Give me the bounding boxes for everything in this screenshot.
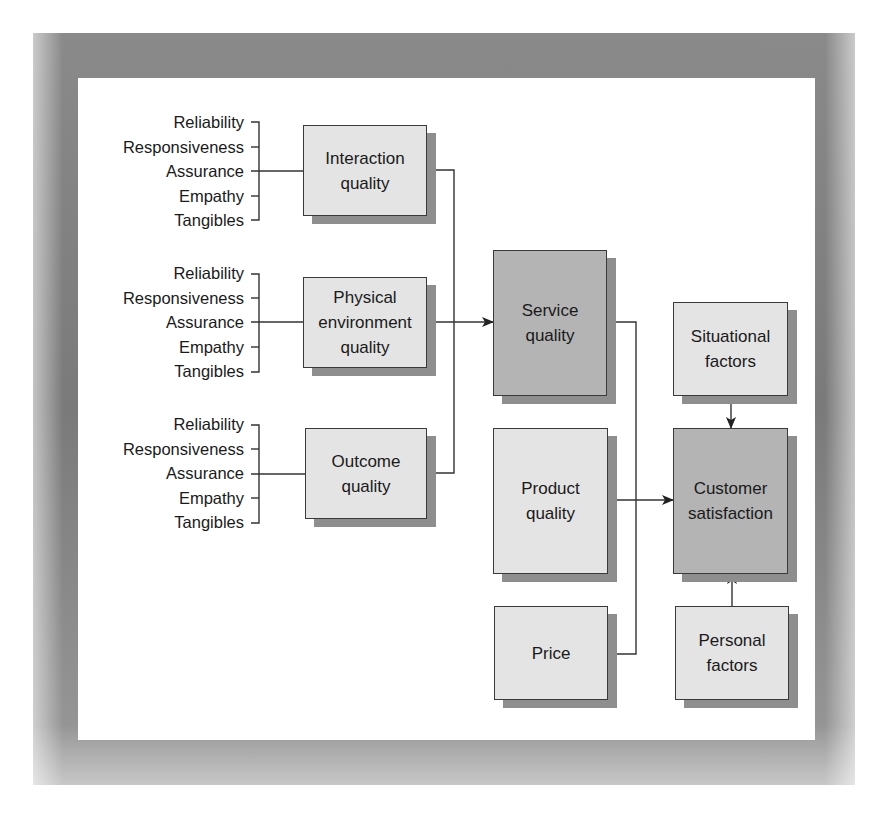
dimension-label: Responsiveness	[123, 286, 244, 311]
node-outcome-quality: Outcome quality	[305, 428, 427, 519]
node-service-quality: Service quality	[493, 250, 607, 396]
dimension-label: Assurance	[123, 461, 244, 486]
node-product-quality: Product quality	[493, 428, 608, 574]
dimension-label: Empathy	[123, 184, 244, 209]
node-label: Customer satisfaction	[688, 476, 773, 526]
node-label: Physical environment quality	[318, 285, 412, 360]
node-label: Product quality	[521, 476, 580, 526]
node-label: Interaction quality	[325, 146, 404, 196]
node-personal-factors: Personal factors	[675, 606, 789, 700]
dimension-label: Responsiveness	[123, 437, 244, 462]
node-label: Personal factors	[698, 628, 765, 678]
node-physical-environment-quality: Physical environment quality	[303, 277, 427, 368]
node-label: Service quality	[522, 298, 579, 348]
dimension-label: Reliability	[123, 110, 244, 135]
node-situational-factors: Situational factors	[673, 302, 788, 396]
node-interaction-quality: Interaction quality	[303, 125, 427, 216]
dimension-list-physical: Reliability Responsiveness Assurance Emp…	[123, 261, 244, 384]
dimension-label: Tangibles	[123, 510, 244, 535]
dimension-label: Empathy	[123, 335, 244, 360]
node-label: Situational factors	[691, 324, 770, 374]
node-customer-satisfaction: Customer satisfaction	[673, 428, 788, 574]
dimension-label: Empathy	[123, 486, 244, 511]
dimension-label: Responsiveness	[123, 135, 244, 160]
dimension-list-outcome: Reliability Responsiveness Assurance Emp…	[123, 412, 244, 535]
dimension-label: Reliability	[123, 261, 244, 286]
dimension-label: Tangibles	[123, 208, 244, 233]
dimension-label: Assurance	[123, 310, 244, 335]
node-label: Outcome quality	[332, 449, 401, 499]
dimension-label: Reliability	[123, 412, 244, 437]
dimension-label: Tangibles	[123, 359, 244, 384]
node-price: Price	[494, 606, 608, 700]
dimension-list-interaction: Reliability Responsiveness Assurance Emp…	[123, 110, 244, 233]
node-label: Price	[532, 641, 571, 666]
dimension-label: Assurance	[123, 159, 244, 184]
